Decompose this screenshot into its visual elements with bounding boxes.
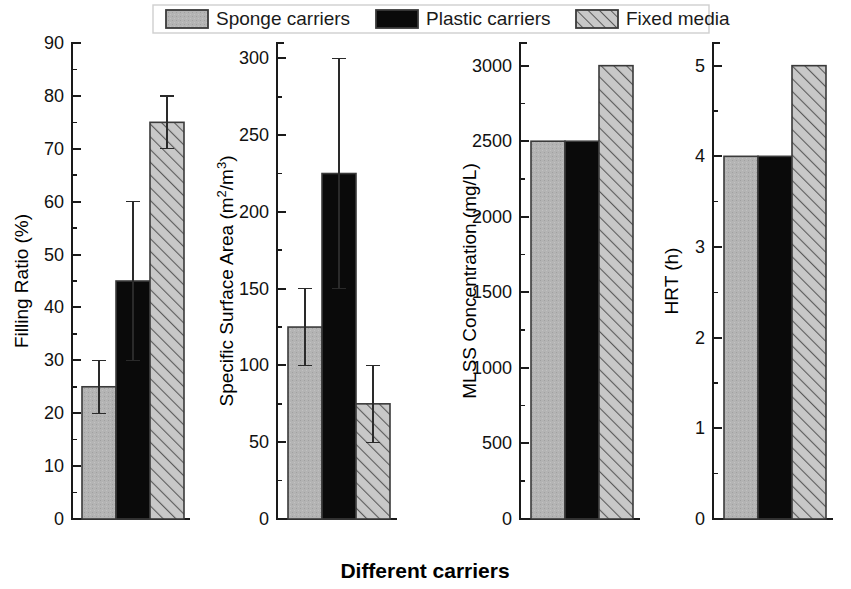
bar-fixed-media <box>792 66 826 519</box>
y-tick-label: 2500 <box>472 131 512 151</box>
bar-plastic-carriers <box>758 156 792 519</box>
legend-swatch-plastic-carriers <box>376 10 418 28</box>
bar-sponge-carriers <box>531 141 565 519</box>
bar-sponge-carriers <box>724 156 758 519</box>
legend-item-plastic-carriers: Plastic carriers <box>376 8 551 29</box>
y-axis-title: Filling Ratio (%) <box>11 214 32 348</box>
x-axis-title: Different carriers <box>340 559 509 582</box>
y-tick-label: 0 <box>54 509 64 529</box>
y-axis-title: HRT (h) <box>661 248 682 315</box>
y-tick-label: 40 <box>44 297 64 317</box>
y-tick-label: 10 <box>44 456 64 476</box>
bar-plastic-carriers <box>565 141 599 519</box>
y-tick-label: 150 <box>239 279 269 299</box>
legend-swatch-fixed-media <box>576 10 618 28</box>
y-tick-label: 100 <box>239 355 269 375</box>
y-tick-label: 30 <box>44 350 64 370</box>
y-tick-label: 0 <box>259 509 269 529</box>
y-tick-label: 5 <box>695 56 705 76</box>
y-tick-label: 3 <box>695 237 705 257</box>
y-tick-label: 50 <box>249 432 269 452</box>
bar-fixed-media <box>599 66 633 519</box>
y-tick-label: 70 <box>44 139 64 159</box>
y-tick-label: 90 <box>44 33 64 53</box>
legend-label-sponge-carriers: Sponge carriers <box>216 8 350 29</box>
y-tick-label: 60 <box>44 192 64 212</box>
bar-fixed-media <box>150 122 184 519</box>
y-tick-label: 2 <box>695 328 705 348</box>
legend-label-plastic-carriers: Plastic carriers <box>426 8 551 29</box>
bar-chart-figure: Sponge carriers Plastic carriers Fixed m… <box>0 0 851 589</box>
legend-swatch-sponge-carriers <box>166 10 208 28</box>
y-tick-label: 3000 <box>472 56 512 76</box>
y-tick-label: 250 <box>239 125 269 145</box>
legend-label-fixed-media: Fixed media <box>626 8 730 29</box>
y-axis-title: MLSS Concentration (mg/L) <box>459 163 480 399</box>
y-tick-label: 1 <box>695 418 705 438</box>
y-tick-label: 80 <box>44 86 64 106</box>
y-tick-label: 50 <box>44 245 64 265</box>
legend-item-fixed-media: Fixed media <box>576 8 730 29</box>
y-tick-label: 0 <box>695 509 705 529</box>
y-tick-label: 0 <box>502 509 512 529</box>
y-tick-label: 500 <box>482 433 512 453</box>
legend-item-sponge-carriers: Sponge carriers <box>166 8 350 29</box>
y-tick-label: 200 <box>239 202 269 222</box>
legend: Sponge carriers Plastic carriers Fixed m… <box>153 5 730 33</box>
y-tick-label: 20 <box>44 403 64 423</box>
y-tick-label: 300 <box>239 48 269 68</box>
y-tick-label: 4 <box>695 146 705 166</box>
